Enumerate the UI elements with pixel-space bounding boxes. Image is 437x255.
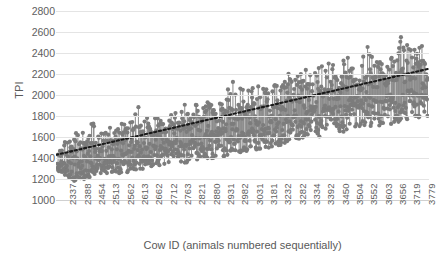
gridline [56,11,429,12]
data-marks [56,11,429,200]
x-tick-label: 2513 [110,183,121,205]
x-tick-label: 3181 [268,183,279,205]
gridline [56,116,429,117]
x-axis-title: Cow ID (animals numbered sequentially) [56,239,429,251]
x-tick-label: 2880 [211,183,222,205]
y-tick-label: 2400 [22,48,55,58]
x-tick-label: 3603 [383,183,394,205]
y-tick-label: 1400 [22,153,55,163]
y-tick-label: 2200 [22,69,55,79]
x-tick-label: 2613 [139,183,150,205]
gridline [56,158,429,159]
y-tick-label: 1200 [22,174,55,184]
x-tick-label: 3779 [426,183,437,205]
plot-area [56,11,429,200]
gridline [56,74,429,75]
gridline [56,137,429,138]
x-tick-label: 2337 [67,183,78,205]
y-tick-label: 2600 [22,27,55,37]
y-tick-label: 1800 [22,111,55,121]
x-tick-label: 3031 [254,183,265,205]
x-tick-label: 3334 [311,183,322,205]
y-tick-label: 1600 [22,132,55,142]
x-tick-label: 2562 [125,183,136,205]
y-tick-label: 2000 [22,90,55,100]
gridline [56,53,429,54]
x-tick-label: 2454 [96,183,107,205]
x-tick-label: 3392 [325,183,336,205]
y-tick-label: 2800 [22,6,55,16]
gridline [56,179,429,180]
x-tick-label: 3504 [354,183,365,205]
x-tick-label: 3719 [411,183,422,205]
x-tick-label: 3552 [368,183,379,205]
x-tick-label: 2662 [153,183,164,205]
x-tick-label: 3656 [397,183,408,205]
x-tick-label: 3282 [297,183,308,205]
x-tick-label: 2931 [225,183,236,205]
gridline [56,32,429,33]
x-tick-label: 2388 [82,183,93,205]
y-tick-label: 1000 [22,195,55,205]
x-tick-label: 2712 [168,183,179,205]
x-tick-label: 2982 [239,183,250,205]
x-tick-label: 2763 [182,183,193,205]
x-tick-label: 2821 [196,183,207,205]
x-tick-label: 3232 [282,183,293,205]
x-tick-label: 3450 [340,183,351,205]
gridline [56,95,429,96]
